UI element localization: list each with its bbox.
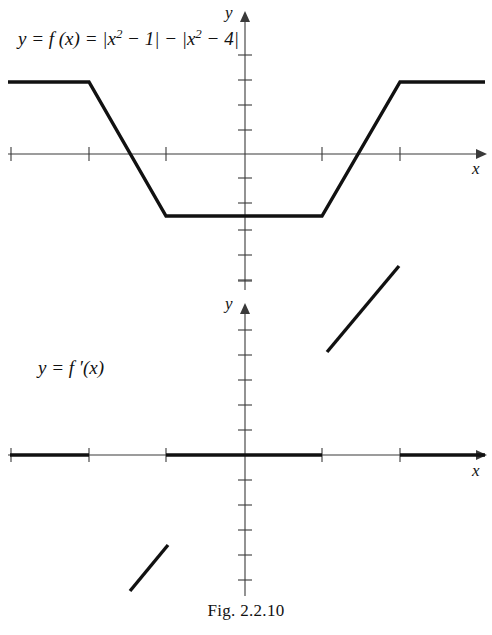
formula-f-prime-of-x: y = f ′(x) bbox=[38, 358, 104, 377]
lower-plot-group bbox=[8, 266, 487, 596]
formula-term1-tail: − 1| bbox=[122, 28, 159, 49]
upper-y-axis-label: y bbox=[225, 4, 233, 21]
formula-term1: |x bbox=[102, 28, 116, 49]
formula-equals-2: = bbox=[85, 28, 98, 49]
formula-prime-equals: = bbox=[51, 357, 64, 378]
upper-x-axis-label: x bbox=[472, 160, 480, 177]
figure-container: y = f (x) = |x2 − 1| − |x2 − 4| y = f ′(… bbox=[0, 0, 492, 635]
formula-equals-1: = bbox=[31, 28, 44, 49]
lower-y-axis-arrow bbox=[240, 303, 250, 314]
upper-y-axis-arrow bbox=[240, 11, 250, 22]
upper-x-axis-arrow bbox=[476, 149, 487, 159]
figure-drawing bbox=[0, 0, 492, 635]
formula-fx: f (x) bbox=[49, 28, 80, 49]
formula-term2: |x bbox=[182, 28, 196, 49]
formula-minus: − bbox=[164, 28, 177, 49]
curve-f-of-x bbox=[8, 82, 485, 216]
lower-y-axis-label: y bbox=[225, 295, 233, 312]
formula-prime-lhs: y bbox=[38, 357, 46, 378]
lower-x-axis-label: x bbox=[472, 462, 480, 479]
formula-f-of-x: y = f (x) = |x2 − 1| − |x2 − 4| bbox=[18, 28, 239, 48]
formula-prime-rhs: f ′(x) bbox=[69, 357, 104, 378]
deriv-negative-slope-branch bbox=[130, 545, 168, 591]
upper-plot-group bbox=[8, 11, 487, 290]
formula-term2-tail: − 4| bbox=[202, 28, 239, 49]
figure-caption: Fig. 2.2.10 bbox=[0, 601, 492, 621]
deriv-positive-slope-branch bbox=[327, 266, 399, 352]
formula-lhs: y bbox=[18, 28, 26, 49]
